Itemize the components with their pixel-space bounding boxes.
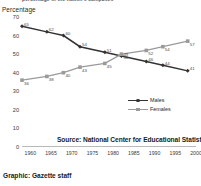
legend-swatch-icon (128, 97, 148, 104)
y-tick-label: 70 (13, 14, 19, 20)
data-point-label: 36 (24, 80, 29, 85)
y-tick-label: 0 (16, 144, 19, 150)
data-point-label: 45 (107, 63, 112, 68)
plot-area: 010203040506070 196019651970197519801985… (22, 17, 196, 147)
y-tick-label: 40 (13, 70, 19, 76)
series-plot (22, 17, 196, 147)
x-tick-label: 1990 (149, 150, 161, 156)
x-tick-label: 1985 (128, 150, 140, 156)
data-point-label: 57 (190, 41, 195, 46)
legend-item-label: Males (150, 96, 164, 105)
y-tick-label: 30 (13, 88, 19, 94)
chart-legend: MalesFemales (128, 96, 171, 114)
credit-note: Graphic: Gazette staff (3, 172, 72, 179)
x-tick-label: 1960 (25, 150, 37, 156)
legend-item-males[interactable]: Males (128, 96, 171, 105)
data-point-label: 54 (82, 42, 87, 47)
data-point-label: 46 (148, 57, 153, 62)
y-tick-label: 20 (13, 107, 19, 113)
data-point-label: 54 (165, 47, 170, 52)
y-tick-label: 60 (13, 33, 19, 39)
data-point-label: 43 (82, 67, 87, 72)
x-tick-label: 1975 (87, 150, 99, 156)
data-point-label: 60 (65, 31, 70, 36)
data-point-label: 38 (49, 76, 54, 81)
legend-swatch-icon (128, 106, 148, 113)
clipped-headline: percentage of the nation's campuses (22, 0, 182, 2)
data-point-label: 44 (165, 60, 170, 65)
data-point-label: 62 (49, 27, 54, 32)
data-point-label: 51 (107, 47, 112, 52)
data-point-label: 52 (148, 50, 153, 55)
legend-item-females[interactable]: Females (128, 105, 171, 114)
x-tick-label: 1965 (45, 150, 57, 156)
data-point-label: 50 (123, 54, 128, 59)
data-point-label: 41 (190, 66, 195, 71)
x-tick-label: 2000 (190, 150, 201, 156)
y-tick-label: 10 (13, 125, 19, 131)
source-note: Source: National Center for Educational … (57, 136, 201, 143)
x-tick-label: 1980 (107, 150, 119, 156)
data-point-label: 65 (24, 21, 29, 26)
y-tick-label: 50 (13, 51, 19, 57)
y-axis-title: Percentage (2, 6, 36, 13)
x-tick-label: 1995 (170, 150, 182, 156)
x-tick-label: 1970 (66, 150, 78, 156)
legend-item-label: Females (150, 105, 171, 114)
data-point-label: 40 (65, 73, 70, 78)
